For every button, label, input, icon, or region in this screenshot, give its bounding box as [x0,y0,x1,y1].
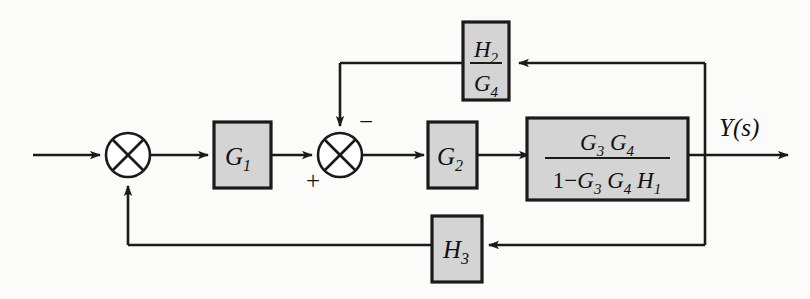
summing-junction-2 [318,133,362,177]
block-g2[interactable]: G2 [428,122,477,188]
block-h3[interactable]: H3 [432,216,482,282]
block-main-numerator: G3 G4 [580,130,635,159]
summing-junction-1 [106,133,150,177]
output-label: Y(s) [719,114,759,142]
block-main-transfer-function[interactable]: G3 G4 1−G3 G4 H1 [527,118,688,200]
summing-junction-2-plus-sign: + [306,167,320,194]
block-h2-over-g4[interactable]: H2 G4 [463,22,509,100]
block-main-denominator: 1−G3 G4 H1 [553,168,661,197]
block-g1[interactable]: G1 [214,122,271,188]
summing-junction-2-minus-sign: − [359,108,373,135]
block-diagram-svg: − + G1 G2 H2 G4 [0,0,810,299]
block-diagram-canvas: − + G1 G2 H2 G4 [0,0,810,299]
